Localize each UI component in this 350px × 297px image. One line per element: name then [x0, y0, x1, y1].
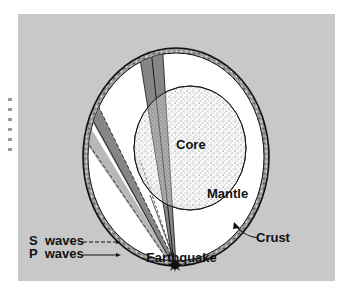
legend-p-waves: P waves — [29, 246, 84, 261]
mantle-label: Mantle — [207, 186, 248, 201]
legend-lines — [83, 240, 121, 257]
earthquake-label: Earthquake — [146, 250, 217, 265]
crust-label: Crust — [256, 230, 290, 245]
core-label: Core — [176, 137, 206, 152]
